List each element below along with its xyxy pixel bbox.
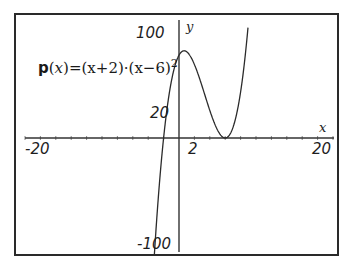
y-tick-label-min: -100 [137,237,171,252]
x-tick-label-min: -20 [25,142,50,157]
x-tick-label-2: 2 [188,142,198,157]
x-axis-label: x [319,121,326,134]
y-axis-label: y [186,20,193,33]
function-exponent: 2 [171,57,178,70]
function-label: p(x)=(x+2)·(x−6)2 [38,58,178,76]
y-tick-label-max: 100 [136,26,165,41]
y-tick-label-20: 20 [150,106,169,121]
function-name: p [38,59,49,77]
x-tick-label-max: 20 [312,142,331,157]
function-expression: )=(x+2)·(x−6) [63,59,171,77]
function-plot [0,0,345,272]
